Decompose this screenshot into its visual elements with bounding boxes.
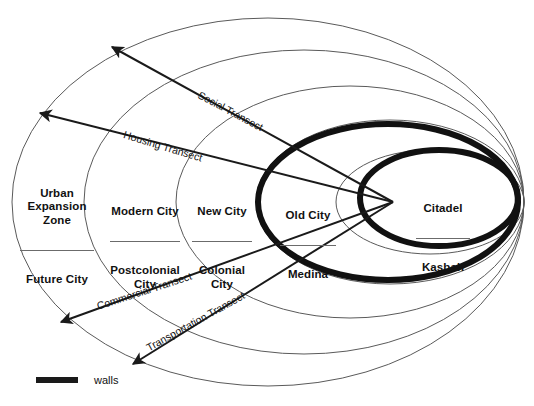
zone-divider-rule (110, 241, 180, 242)
walls-legend-label: walls (94, 374, 118, 386)
zone-secondary-label: Medina (272, 268, 344, 282)
zone-primary-label: Old City (272, 209, 344, 225)
zone-primary-label: Modern City (96, 205, 194, 221)
walls-legend-swatch (36, 377, 78, 383)
zone-secondary-label: Kasbah (408, 261, 478, 275)
legend: walls (36, 374, 118, 386)
zone-divider-rule (416, 238, 470, 239)
zone-divider-rule (280, 245, 336, 246)
zone-primary-label: Citadel (408, 202, 478, 218)
zone-secondary-label: Colonial City (186, 264, 258, 291)
diagram-canvas: Urban Expansion Zone Future City Modern … (0, 0, 534, 406)
zone-label-urban-expansion-zone: Urban Expansion Zone Future City (14, 168, 100, 306)
zone-label-new-city: New City Colonial City (186, 186, 258, 310)
zone-label-citadel: Citadel Kasbah (408, 183, 478, 294)
zone-primary-label: Urban Expansion Zone (14, 187, 100, 230)
zone-primary-label: New City (186, 205, 258, 221)
zone-label-old-city: Old City Medina (272, 190, 344, 301)
zone-secondary-label: Future City (14, 273, 100, 287)
zone-divider-rule (20, 250, 94, 251)
zone-divider-rule (192, 241, 252, 242)
